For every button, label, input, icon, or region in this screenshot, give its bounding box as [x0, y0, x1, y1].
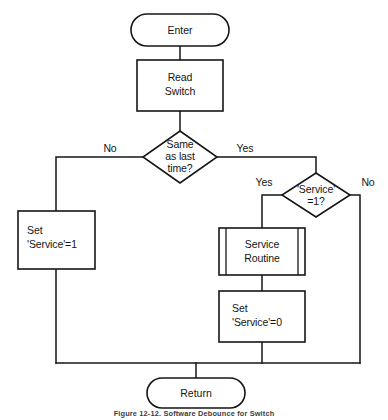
service-eq-1-line2: =1?: [307, 195, 325, 207]
same-as-last-line2: as last: [165, 150, 195, 162]
node-set-service-1: Set 'Service'=1: [18, 211, 95, 269]
service-routine-line1: Service: [245, 238, 280, 250]
service-routine-line2: Routine: [244, 252, 280, 264]
enter-label: Enter: [167, 24, 193, 36]
node-service-eq-1-decision: 'Service' =1?: [282, 173, 350, 217]
set-service-0-line1: Set: [232, 302, 248, 314]
connector-service-yes-branch: [262, 195, 282, 228]
set-service-1-line2: 'Service'=1: [27, 238, 77, 250]
read-switch-label-line1: Read: [168, 71, 193, 83]
set-service-1-line1: Set: [27, 224, 43, 236]
flowchart-figure: Enter Read Switch Same as last time? 'Se…: [0, 0, 388, 420]
node-same-as-last-decision: Same as last time?: [143, 131, 217, 183]
same-as-last-line3: time?: [167, 162, 192, 174]
node-enter: Enter: [131, 14, 229, 46]
read-switch-label-line2: Switch: [165, 85, 196, 97]
return-label: Return: [180, 387, 212, 399]
node-set-service-0: Set 'Service'=0: [219, 291, 305, 342]
flowchart-canvas: Enter Read Switch Same as last time? 'Se…: [0, 0, 388, 420]
service-eq-1-line1: 'Service': [297, 183, 335, 195]
connector-same-yes-branch: [217, 157, 316, 173]
same-as-last-line1: Same: [166, 138, 193, 150]
figure-caption: Figure 12-12. Software Debounce for Swit…: [0, 407, 388, 420]
branch-label-service-yes: Yes: [256, 176, 273, 188]
branch-label-same-yes: Yes: [237, 142, 254, 154]
node-return: Return: [147, 378, 245, 408]
node-read-switch: Read Switch: [137, 60, 223, 111]
connector-service-no-branch: [350, 195, 360, 363]
node-service-routine: Service Routine: [219, 228, 305, 275]
branch-label-same-no: No: [103, 142, 116, 154]
branch-label-service-no: No: [361, 176, 374, 188]
set-service-0-line2: 'Service'=0: [232, 316, 282, 328]
